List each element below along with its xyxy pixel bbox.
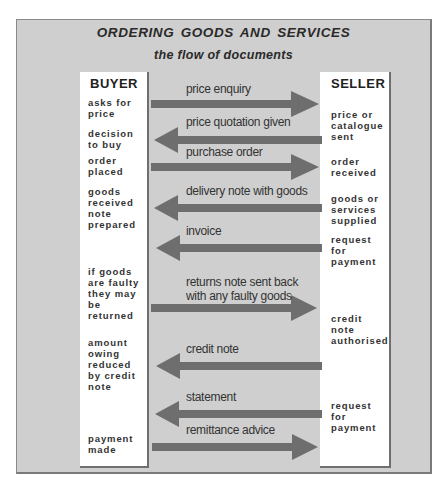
seller-note: price or catalogue sent	[331, 109, 383, 142]
flow-label: price quotation given	[186, 115, 290, 129]
flow-label: price enquiry	[186, 82, 251, 96]
flow-label: purchase order	[186, 145, 263, 159]
buyer-note: order placed	[88, 155, 124, 177]
flow-label: statement	[186, 390, 236, 404]
buyer-heading: BUYER	[90, 76, 138, 91]
buyer-note: if goods are faulty they may be returned	[88, 266, 139, 321]
flow-label: credit note	[186, 342, 239, 356]
flow-label: delivery note with goods	[186, 184, 308, 198]
arrow-left-icon	[156, 235, 322, 261]
seller-note: request for payment	[331, 400, 376, 433]
buyer-note: decision to buy	[88, 128, 134, 150]
buyer-note: payment made	[88, 433, 133, 455]
seller-note: request for payment	[331, 234, 376, 267]
flow-label: invoice	[186, 224, 221, 238]
flow-label: remittance advice	[186, 423, 275, 437]
diagram-subtitle: the flow of documents	[16, 48, 431, 62]
seller-heading: SELLER	[331, 76, 385, 91]
flow-label: returns note sent back with any faulty g…	[186, 275, 298, 303]
seller-note: credit note authorised	[331, 313, 389, 346]
buyer-note: asks for price	[88, 97, 132, 119]
seller-note: order received	[331, 156, 377, 178]
arrow-right-icon	[152, 434, 322, 460]
buyer-note: goods received note prepared	[88, 186, 136, 230]
buyer-note: amount owing reduced by credit note	[88, 337, 136, 392]
diagram-title: ORDERING GOODS AND SERVICES	[16, 25, 431, 40]
arrow-left-icon	[154, 195, 322, 221]
arrow-left-icon	[156, 353, 322, 379]
seller-note: goods or services supplied	[331, 193, 379, 226]
